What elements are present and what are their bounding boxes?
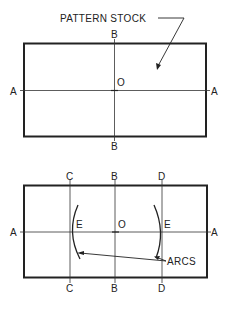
label-b-top: B	[111, 171, 118, 182]
bottom-figure: A A B B C C D D O E E ARCS	[10, 171, 218, 294]
label-b-bottom: B	[111, 283, 118, 294]
label-o: O	[118, 219, 126, 230]
top-figure: A A B B O PATTERN STOCK	[10, 13, 218, 152]
label-c-bottom: C	[66, 283, 73, 294]
callout-pattern-stock: PATTERN STOCK	[60, 13, 146, 24]
label-c-top: C	[66, 171, 73, 182]
label-a-left: A	[10, 86, 17, 97]
label-o: O	[117, 77, 125, 88]
label-b-bottom: B	[111, 141, 118, 152]
diagram-canvas: A A B B O PATTERN STOCK A A B B C	[0, 0, 231, 309]
label-a-left: A	[10, 227, 17, 238]
label-d-bottom: D	[158, 283, 165, 294]
label-a-right: A	[211, 86, 218, 97]
leader-line-left	[80, 253, 166, 261]
label-b-top: B	[111, 29, 118, 40]
arrowhead-icon	[156, 63, 161, 70]
label-a-right: A	[211, 227, 218, 238]
label-e-left: E	[76, 219, 83, 230]
label-d-top: D	[158, 171, 165, 182]
label-e-right: E	[164, 219, 171, 230]
arc-right	[154, 205, 161, 258]
callout-arcs: ARCS	[167, 256, 196, 267]
leader-line	[158, 18, 184, 66]
